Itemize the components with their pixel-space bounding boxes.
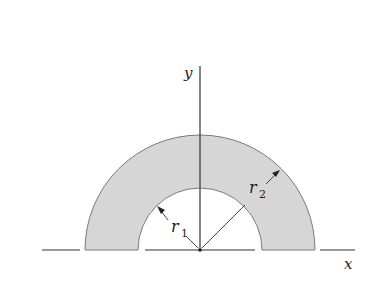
r1-label: r	[171, 217, 180, 236]
half-annulus-diagram: y x r 1 r 2	[0, 0, 377, 282]
r1-subscript: 1	[181, 227, 188, 240]
r2-label: r	[249, 178, 258, 197]
x-axis-label: x	[344, 255, 353, 273]
r1-radius-arrow	[161, 211, 198, 248]
r1-arrowhead-icon	[157, 206, 165, 214]
r2-subscript: 2	[259, 188, 266, 201]
y-axis-label: y	[183, 64, 193, 82]
origin-point	[198, 248, 202, 252]
r2-radius-line	[202, 205, 245, 248]
